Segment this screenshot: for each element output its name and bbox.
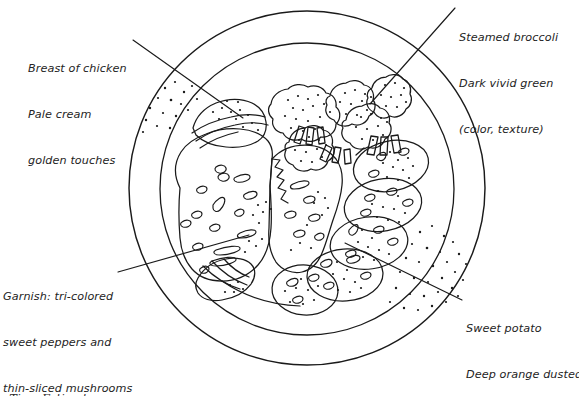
label-broccoli-line-2: Dark vivid green	[459, 76, 558, 91]
label-garnish-line-2: sweet peppers and	[3, 335, 132, 350]
food-base-contour	[222, 281, 300, 306]
sweet-potato-slice-2	[340, 173, 426, 238]
leader-line-broccoli	[370, 8, 455, 104]
time-estimate-label: Time Estimate:	[9, 391, 97, 396]
label-potato-line-2: Deep orange dusted	[466, 367, 579, 382]
label-steamed-broccoli: Steamed broccoli Dark vivid green (color…	[459, 0, 558, 152]
chicken-sear-stripe-1	[192, 115, 265, 133]
label-potato-line-1: Sweet potato	[466, 321, 579, 336]
label-chicken-line-1: Breast of chicken	[28, 61, 127, 76]
label-sweet-potato: Sweet potato Deep orange dusted with fle…	[466, 291, 579, 396]
chicken-breast-divider	[272, 159, 288, 203]
label-garnish-line-1: Garnish: tri-colored	[3, 289, 132, 304]
plate-speckles-left	[142, 81, 198, 133]
label-broccoli-line-1: Steamed broccoli	[459, 30, 558, 45]
label-broccoli-line-3: (color, texture)	[459, 122, 558, 137]
plate-speckles-right	[389, 225, 467, 311]
chicken-flecks-left	[181, 165, 257, 273]
plate-outer-rim	[129, 11, 485, 365]
chicken-flecks-right	[285, 181, 324, 240]
label-chicken-line-2: Pale cream	[28, 107, 127, 122]
sweet-potato-flecks-5	[287, 274, 319, 303]
chicken-sear-stripe-2	[196, 123, 268, 141]
label-breast-of-chicken: Breast of chicken Pale cream golden touc…	[28, 31, 127, 183]
broccoli-floret-2	[285, 126, 334, 172]
label-chicken-line-3: golden touches	[28, 153, 127, 168]
time-estimate-caption: Time Estimate:	[2, 376, 98, 396]
chicken-speckles-right	[290, 191, 329, 251]
